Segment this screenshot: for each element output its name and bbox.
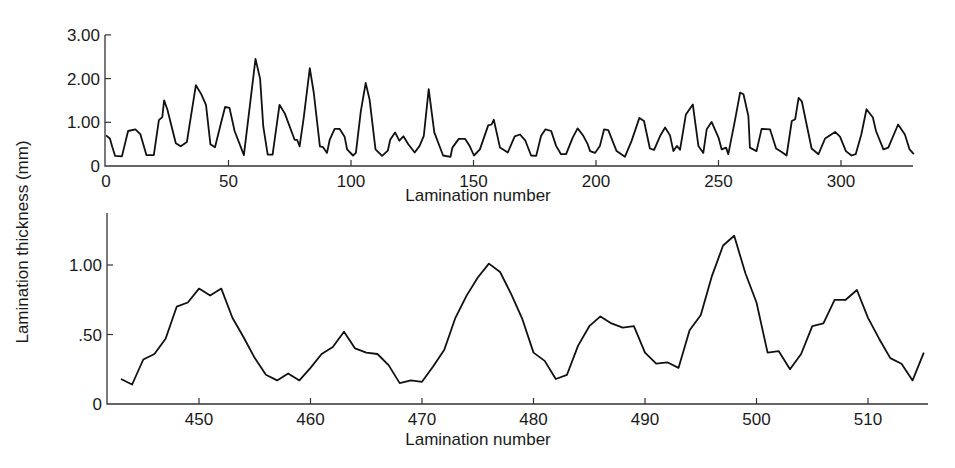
- x-tick-label: 300: [827, 172, 855, 191]
- figure: Lamination thickness (mm) 05010015020025…: [0, 0, 955, 468]
- y-tick-label: 1.00: [69, 256, 102, 275]
- x-tick-label: 510: [854, 410, 882, 429]
- y-tick-label: 0: [93, 395, 102, 414]
- x-tick-label: 50: [219, 172, 238, 191]
- top-x-axis-label: Lamination number: [405, 186, 551, 205]
- x-tick-label: 0: [101, 172, 110, 191]
- y-tick-label: 2.00: [67, 70, 100, 89]
- x-tick-label: 490: [631, 410, 659, 429]
- top-axes: [105, 35, 913, 166]
- chart-canvas: Lamination thickness (mm) 05010015020025…: [0, 0, 955, 468]
- y-tick-label: 3.00: [67, 26, 100, 45]
- x-tick-label: 470: [408, 410, 436, 429]
- top-plot: 050100150200250300 01.002.003.00 Laminat…: [67, 26, 914, 205]
- x-tick-label: 460: [296, 410, 324, 429]
- bottom-series-line: [121, 236, 924, 385]
- x-tick-label: 200: [582, 172, 610, 191]
- y-tick-label: 1.00: [67, 113, 100, 132]
- x-tick-label: 500: [742, 410, 770, 429]
- bottom-x-ticks: 450460470480490500510: [185, 398, 882, 429]
- x-tick-label: 480: [519, 410, 547, 429]
- x-tick-label: 100: [337, 172, 365, 191]
- top-series-line: [106, 59, 914, 157]
- top-axis-lines: [105, 35, 913, 166]
- x-tick-label: 450: [185, 410, 213, 429]
- bottom-x-axis-label: Lamination number: [405, 430, 551, 449]
- y-tick-label: 0: [91, 157, 100, 176]
- bottom-plot: 450460470480490500510 0.501.00 Laminatio…: [69, 213, 928, 449]
- y-axis-label: Lamination thickness (mm): [13, 140, 32, 343]
- y-tick-label: .50: [78, 326, 102, 345]
- x-tick-label: 250: [704, 172, 732, 191]
